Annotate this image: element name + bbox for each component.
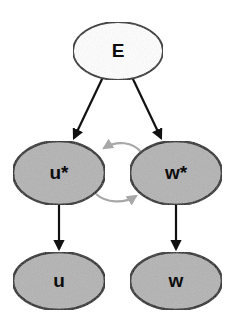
node-u-label: u (53, 270, 65, 291)
node-layer: E u* w* u w (13, 22, 222, 310)
node-w-star[interactable]: w* (130, 141, 222, 205)
edge-wstar-to-ustar (104, 143, 141, 152)
node-e-label: E (112, 40, 125, 61)
node-w-star-label: w* (164, 162, 188, 183)
edge-e-to-ustar (74, 77, 103, 138)
graph-svg: E u* w* u w (0, 0, 235, 331)
node-u-star[interactable]: u* (13, 141, 105, 205)
edge-ustar-to-wstar (96, 194, 136, 201)
edge-e-to-wstar (132, 77, 161, 138)
node-u-star-label: u* (50, 162, 70, 183)
node-u[interactable]: u (13, 252, 105, 310)
diagram-canvas: E u* w* u w (0, 0, 235, 331)
node-w-label: w (168, 270, 184, 291)
node-e[interactable]: E (73, 22, 163, 80)
node-w[interactable]: w (130, 252, 222, 310)
